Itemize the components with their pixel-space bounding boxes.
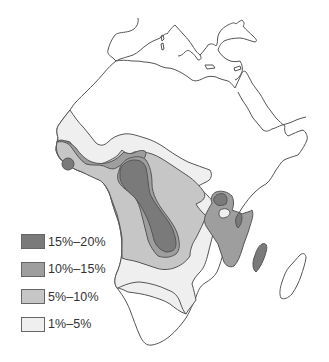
- iberia-coastline: [108, 18, 167, 61]
- zone-15-20-east-north: [214, 194, 227, 206]
- italy-coastline: [167, 25, 201, 60]
- legend-item-1-5: 1%–5%: [21, 311, 106, 339]
- corsica-island: [161, 43, 164, 50]
- legend-item-15-20: 15%–20%: [21, 228, 106, 256]
- legend-label: 15%–20%: [48, 235, 106, 249]
- legend-label: 10%–15%: [48, 262, 106, 276]
- balkans-coastline: [200, 20, 256, 80]
- zone-15-20-westcoast: [62, 158, 74, 170]
- legend-swatch-15-20: [21, 234, 45, 249]
- legend-item-5-10: 5%–10%: [21, 283, 106, 311]
- madagascar-outline: [280, 254, 306, 299]
- legend-label: 1%–5%: [48, 317, 92, 331]
- legend-swatch-5-10: [21, 289, 45, 304]
- cyprus-island: [234, 66, 241, 71]
- legend-swatch-10-15: [21, 262, 45, 277]
- legend-label: 5%–10%: [48, 290, 99, 304]
- zone-15-20-east-coast: [253, 243, 267, 272]
- legend-item-10-15: 10%–15%: [21, 256, 106, 284]
- legend-swatch-1-5: [21, 317, 45, 332]
- crete-island: [205, 65, 215, 69]
- legend: 15%–20% 10%–15% 5%–10% 1%–5%: [21, 228, 106, 338]
